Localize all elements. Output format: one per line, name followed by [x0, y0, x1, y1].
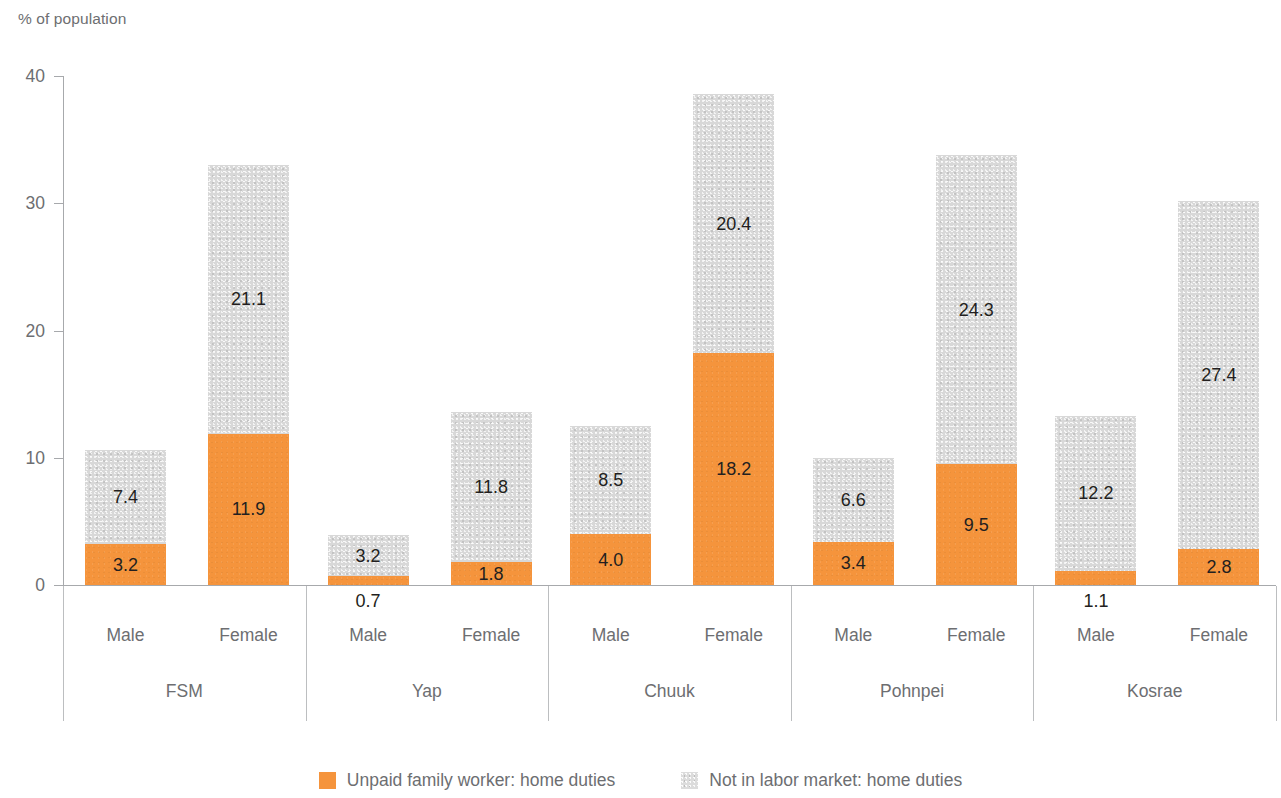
- group-label-yap: Yap: [412, 681, 442, 702]
- group-label-kosrae: Kosrae: [1127, 681, 1182, 702]
- category-group-divider: [1276, 586, 1277, 721]
- bar-value-label: 6.6: [813, 491, 894, 509]
- y-tick-mark: [54, 458, 63, 459]
- plot-area: 010203040 7.43.221.111.93.20.711.81.88.5…: [63, 76, 1276, 585]
- bar-segment-unpaid-family-worker[interactable]: 18.2: [693, 353, 774, 585]
- bar-value-label: 20.4: [693, 215, 774, 233]
- bar-chuuk-female[interactable]: 20.418.2: [693, 94, 774, 585]
- bar-segment-not-in-labor-market[interactable]: 6.6: [813, 458, 894, 542]
- bar-fsm-female[interactable]: 21.111.9: [208, 165, 289, 585]
- legend-item-notinlabor[interactable]: Not in labor market: home duties: [681, 770, 962, 791]
- category-label-female: Female: [947, 625, 1005, 646]
- category-group-divider: [1033, 586, 1034, 721]
- y-tick-mark: [54, 76, 63, 77]
- legend-item-unpaid[interactable]: Unpaid family worker: home duties: [319, 770, 615, 791]
- bar-value-label: 12.2: [1055, 484, 1136, 502]
- legend-swatch-icon: [319, 772, 336, 789]
- bar-fsm-male[interactable]: 7.43.2: [85, 450, 166, 585]
- bar-value-label: 11.8: [451, 478, 532, 496]
- bar-segment-unpaid-family-worker[interactable]: 11.9: [208, 434, 289, 585]
- bar-pohnpei-female[interactable]: 24.39.5: [936, 155, 1017, 585]
- category-label-male: Male: [834, 625, 872, 646]
- bar-segment-not-in-labor-market[interactable]: 21.1: [208, 165, 289, 433]
- bar-value-label: 18.2: [693, 460, 774, 478]
- legend-swatch-icon: [681, 772, 698, 789]
- bar-segment-not-in-labor-market[interactable]: 12.2: [1055, 416, 1136, 571]
- bar-segment-unpaid-family-worker[interactable]: 9.5: [936, 464, 1017, 585]
- bar-value-label: 3.2: [328, 547, 409, 565]
- bar-value-label: 8.5: [570, 471, 651, 489]
- category-group-divider: [791, 586, 792, 721]
- bar-segment-not-in-labor-market[interactable]: 27.4: [1178, 201, 1259, 550]
- bar-segment-not-in-labor-market[interactable]: 11.8: [451, 412, 532, 562]
- category-group-divider: [306, 586, 307, 721]
- bar-value-label: 27.4: [1178, 366, 1259, 384]
- category-label-male: Male: [1077, 625, 1115, 646]
- category-label-female: Female: [219, 625, 277, 646]
- bar-segment-unpaid-family-worker[interactable]: 0.7: [328, 576, 409, 585]
- bar-value-label: 1.8: [451, 565, 532, 583]
- category-label-male: Male: [107, 625, 145, 646]
- group-label-fsm: FSM: [166, 681, 203, 702]
- y-tick-label: 10: [5, 447, 45, 468]
- y-tick-label: 0: [5, 575, 45, 596]
- group-label-chuuk: Chuuk: [644, 681, 695, 702]
- bar-value-label: 3.4: [813, 554, 894, 572]
- bar-segment-not-in-labor-market[interactable]: 7.4: [85, 450, 166, 544]
- category-label-male: Male: [592, 625, 630, 646]
- bar-yap-female[interactable]: 11.81.8: [451, 412, 532, 585]
- bar-segment-unpaid-family-worker[interactable]: 3.2: [85, 544, 166, 585]
- bar-segment-not-in-labor-market[interactable]: 20.4: [693, 94, 774, 354]
- y-tick-label: 30: [5, 193, 45, 214]
- bar-segment-unpaid-family-worker[interactable]: 1.1: [1055, 571, 1136, 585]
- bar-yap-male[interactable]: 3.20.7: [328, 535, 409, 585]
- bar-value-label: 2.8: [1178, 558, 1259, 576]
- bar-pohnpei-male[interactable]: 6.63.4: [813, 458, 894, 585]
- bar-segment-unpaid-family-worker[interactable]: 4.0: [570, 534, 651, 585]
- bar-value-label: 3.2: [85, 556, 166, 574]
- stacked-bar-chart: % of population 010203040 7.43.221.111.9…: [0, 0, 1281, 798]
- bar-kosrae-male[interactable]: 12.21.1: [1055, 416, 1136, 585]
- category-label-female: Female: [462, 625, 520, 646]
- y-tick-mark: [54, 585, 63, 586]
- bar-value-label: 7.4: [85, 488, 166, 506]
- category-label-female: Female: [705, 625, 763, 646]
- group-label-pohnpei: Pohnpei: [880, 681, 944, 702]
- bar-value-label: 21.1: [208, 290, 289, 308]
- chart-legend: Unpaid family worker: home dutiesNot in …: [0, 770, 1281, 791]
- category-label-female: Female: [1190, 625, 1248, 646]
- y-axis-title: % of population: [18, 10, 126, 28]
- bar-value-label: 9.5: [936, 516, 1017, 534]
- y-tick-mark: [54, 331, 63, 332]
- y-axis-line: [63, 76, 64, 585]
- legend-label: Unpaid family worker: home duties: [347, 770, 615, 791]
- bar-segment-unpaid-family-worker[interactable]: 1.8: [451, 562, 532, 585]
- y-tick-label: 20: [5, 320, 45, 341]
- category-axis: MaleFemaleFSMMaleFemaleYapMaleFemaleChuu…: [63, 586, 1276, 721]
- bar-kosrae-female[interactable]: 27.42.8: [1178, 201, 1259, 585]
- bar-value-label: 11.9: [208, 500, 289, 518]
- bar-segment-not-in-labor-market[interactable]: 24.3: [936, 155, 1017, 464]
- y-tick-label: 40: [5, 66, 45, 87]
- bar-segment-not-in-labor-market[interactable]: 3.2: [328, 535, 409, 576]
- bar-value-label: 4.0: [570, 551, 651, 569]
- bar-segment-unpaid-family-worker[interactable]: 2.8: [1178, 549, 1259, 585]
- category-group-divider: [548, 586, 549, 721]
- category-label-male: Male: [349, 625, 387, 646]
- y-tick-mark: [54, 203, 63, 204]
- bar-chuuk-male[interactable]: 8.54.0: [570, 426, 651, 585]
- legend-label: Not in labor market: home duties: [709, 770, 962, 791]
- bar-value-label: 24.3: [936, 301, 1017, 319]
- bar-segment-not-in-labor-market[interactable]: 8.5: [570, 426, 651, 534]
- bar-segment-unpaid-family-worker[interactable]: 3.4: [813, 542, 894, 585]
- category-group-divider: [63, 586, 64, 721]
